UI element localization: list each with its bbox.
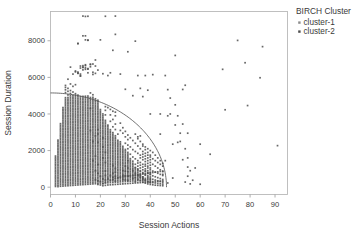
scatter-point — [139, 178, 141, 180]
scatter-point — [87, 15, 89, 17]
scatter-point — [60, 180, 62, 182]
scatter-point — [115, 162, 117, 164]
scatter-point — [95, 133, 97, 135]
scatter-point — [67, 138, 69, 140]
scatter-point — [115, 151, 117, 153]
scatter-point — [95, 127, 97, 129]
scatter-point — [80, 176, 82, 178]
scatter-point — [92, 71, 94, 73]
scatter-point — [92, 172, 94, 174]
scatter-point — [60, 128, 62, 130]
scatter-point — [92, 181, 94, 183]
scatter-point — [82, 179, 84, 181]
scatter-point — [85, 111, 87, 113]
scatter-point — [124, 152, 126, 154]
scatter-point — [102, 166, 104, 168]
scatter-point — [60, 153, 62, 155]
scatter-point — [112, 159, 114, 161]
scatter-point — [237, 40, 239, 42]
scatter-point — [62, 177, 64, 179]
scatter-point — [122, 181, 124, 183]
scatter-point — [107, 169, 109, 171]
scatter-point — [164, 160, 166, 162]
scatter-point — [90, 162, 92, 164]
scatter-point — [67, 98, 69, 100]
scatter-point — [95, 173, 97, 175]
scatter-point — [122, 127, 124, 129]
scatter-point — [82, 101, 84, 103]
scatter-point — [115, 140, 117, 142]
scatter-point — [157, 162, 159, 164]
scatter-point — [75, 173, 77, 175]
scatter-point — [82, 153, 84, 155]
scatter-point — [82, 174, 84, 176]
scatter-point — [95, 109, 97, 111]
scatter-point — [95, 168, 97, 170]
scatter-point — [139, 167, 141, 169]
scatter-point — [97, 114, 99, 116]
scatter-point — [115, 161, 117, 163]
x-tick-label: 50 — [171, 200, 179, 209]
scatter-point — [72, 173, 74, 175]
scatter-point — [112, 133, 114, 135]
scatter-point — [60, 137, 62, 139]
scatter-point — [102, 128, 104, 130]
scatter-point — [70, 113, 72, 115]
scatter-point — [62, 150, 64, 152]
scatter-point — [112, 140, 114, 142]
scatter-point — [90, 116, 92, 118]
scatter-point — [82, 65, 84, 67]
scatter-point — [105, 155, 107, 157]
scatter-point — [137, 145, 139, 147]
scatter-point — [65, 113, 67, 115]
scatter-point — [72, 103, 74, 105]
scatter-point — [110, 158, 112, 160]
scatter-point — [90, 124, 92, 126]
scatter-point — [189, 183, 191, 185]
scatter-point — [107, 151, 109, 153]
scatter-point — [75, 104, 77, 106]
scatter-point — [85, 127, 87, 129]
scatter-point — [75, 178, 77, 180]
scatter-point — [112, 137, 114, 139]
scatter-point — [97, 159, 99, 161]
scatter-point — [132, 164, 134, 166]
scatter-point — [85, 145, 87, 147]
scatter-point — [97, 109, 99, 111]
scatter-point — [65, 161, 67, 163]
scatter-point — [57, 146, 59, 148]
scatter-point — [147, 181, 149, 183]
scatter-point — [95, 112, 97, 114]
scatter-point — [70, 100, 72, 102]
scatter-point — [57, 155, 59, 157]
scatter-point — [72, 125, 74, 127]
scatter-point — [72, 146, 74, 148]
scatter-point — [87, 166, 89, 168]
scatter-point — [127, 51, 129, 53]
scatter-point — [159, 169, 161, 171]
scatter-point — [85, 164, 87, 166]
scatter-point — [70, 116, 72, 118]
scatter-point — [72, 185, 74, 187]
scatter-point — [199, 143, 201, 145]
scatter-point — [110, 159, 112, 161]
scatter-point — [77, 114, 79, 116]
scatter-point — [80, 168, 82, 170]
scatter-point — [80, 104, 82, 106]
scatter-point — [100, 165, 102, 167]
scatter-point — [110, 150, 112, 152]
scatter-point — [115, 143, 117, 145]
scatter-point — [60, 171, 62, 173]
scatter-point — [75, 125, 77, 127]
scatter-point — [95, 111, 97, 113]
scatter-point — [67, 167, 69, 169]
scatter-point — [112, 148, 114, 150]
scatter-point — [132, 162, 134, 164]
scatter-point — [105, 144, 107, 146]
scatter-point — [95, 65, 97, 67]
scatter-point — [65, 148, 67, 150]
scatter-point — [85, 169, 87, 171]
scatter-point — [122, 162, 124, 164]
scatter-point — [62, 113, 64, 115]
scatter-point — [72, 168, 74, 170]
